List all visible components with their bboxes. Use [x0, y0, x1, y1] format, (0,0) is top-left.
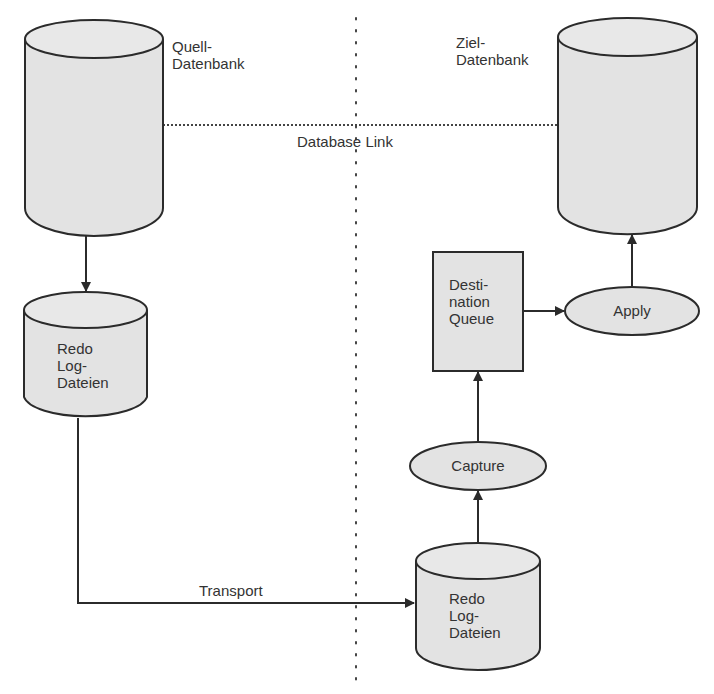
source-db-cylinder [25, 20, 163, 236]
redo-target-label: Redo Log- Dateien [449, 590, 501, 641]
dest-queue-line3: Queue [449, 310, 494, 327]
redo-source-line2: Log- [57, 357, 109, 374]
redo-source-line3: Dateien [57, 374, 109, 391]
redo-target-line3: Dateien [449, 624, 501, 641]
target-db-label: Ziel- Datenbank [456, 34, 529, 68]
redo-source-line1: Redo [57, 340, 109, 357]
transport-label: Transport [199, 582, 263, 599]
target-db-cylinder [558, 18, 697, 234]
dest-queue-label: Desti- nation Queue [449, 276, 494, 327]
capture-label: Capture [410, 457, 546, 474]
source-db-label-line2: Datenbank [172, 55, 245, 72]
apply-label: Apply [565, 302, 699, 319]
redo-target-line2: Log- [449, 607, 501, 624]
dest-queue-line1: Desti- [449, 276, 494, 293]
target-db-label-line1: Ziel- [456, 34, 529, 51]
target-db-label-line2: Datenbank [456, 51, 529, 68]
dest-queue-line2: nation [449, 293, 494, 310]
database-link-label: Database Link [297, 133, 393, 150]
redo-target-line1: Redo [449, 590, 501, 607]
redo-source-label: Redo Log- Dateien [57, 340, 109, 391]
source-db-label: Quell- Datenbank [172, 38, 245, 72]
arrow-transport [78, 418, 414, 603]
source-db-label-line1: Quell- [172, 38, 245, 55]
